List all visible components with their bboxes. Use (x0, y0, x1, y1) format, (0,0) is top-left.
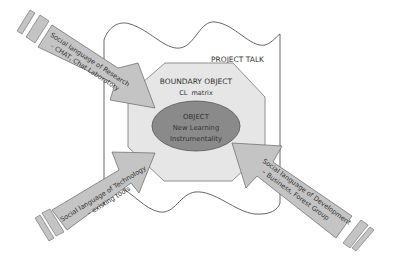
boundary-object-subtitle: CL matrix (179, 89, 213, 97)
object-title: OBJECT (183, 113, 210, 121)
object-line1: New Learning (173, 124, 220, 132)
project-talk-diagram: PROJECT TALK BOUNDARY OBJECT CL matrix O… (0, 0, 395, 259)
object-line2: Instrumentality (170, 135, 222, 143)
boundary-object-title: BOUNDARY OBJECT (160, 77, 233, 86)
